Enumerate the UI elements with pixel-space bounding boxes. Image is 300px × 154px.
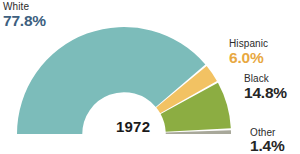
annotation-hispanic: Hispanic 6.0% [229, 39, 268, 66]
annotation-black-value: 14.8% [244, 85, 287, 101]
annotation-other: Other 1.4% [250, 128, 285, 154]
chart-figure: White 77.8% Hispanic 6.0% Black 14.8% Ot… [0, 0, 300, 154]
annotation-black-label: Black [244, 74, 287, 84]
annotation-white-value: 77.8% [3, 13, 46, 29]
annotation-other-value: 1.4% [250, 138, 285, 154]
annotation-hispanic-label: Hispanic [229, 39, 268, 49]
chart-year-label: 1972 [116, 118, 150, 135]
annotation-white: White 77.8% [3, 2, 46, 29]
annotation-black: Black 14.8% [244, 74, 287, 101]
annotation-hispanic-value: 6.0% [229, 50, 268, 66]
annotation-white-label: White [3, 2, 46, 12]
